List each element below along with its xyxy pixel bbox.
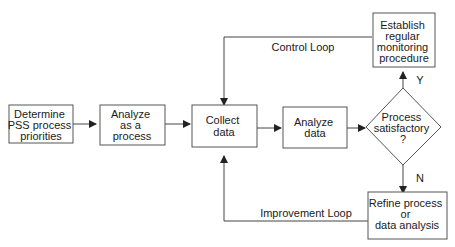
node-determine-priorities: Determine PSS process priorities — [8, 105, 75, 143]
node-collect-data: Collect data — [192, 105, 257, 147]
node-text-line: Collect — [206, 114, 240, 126]
node-decision-process-satisfactory: Process satisfactory ? — [366, 88, 441, 165]
yes-label: Y — [416, 74, 424, 86]
node-refine-process: Refine process or data analysis — [368, 192, 447, 239]
node-text-line: priorities — [20, 130, 62, 142]
node-text-line: data — [213, 126, 235, 138]
node-text-line: process — [113, 130, 152, 142]
improvement-loop-label: Improvement Loop — [260, 207, 352, 219]
node-text-line: procedure — [379, 52, 429, 64]
control-loop-label: Control Loop — [272, 41, 335, 53]
flowchart-canvas: Y N Control Loop Improvement Loop Determ… — [0, 0, 455, 247]
node-analyze-as-process: Analyze as a process — [100, 105, 165, 145]
node-text-line: data — [304, 127, 326, 139]
node-analyze-data: Analyze data — [283, 107, 347, 148]
node-establish-monitoring: Establish regular monitoring procedure — [373, 13, 435, 67]
node-text-line: ? — [400, 133, 406, 145]
node-text-line: data analysis — [375, 219, 440, 231]
svg-text:Establish regular: Establish regular monitoring procedure — [377, 19, 431, 64]
no-label: N — [416, 172, 424, 184]
